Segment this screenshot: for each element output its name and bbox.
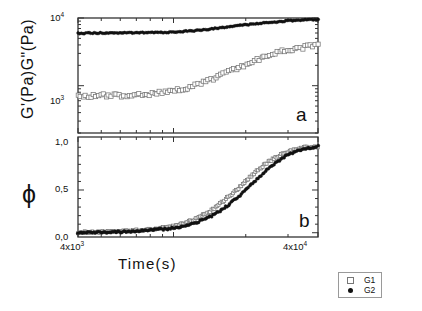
filled-circle-icon: [342, 288, 358, 293]
panel-b-series: [76, 144, 320, 235]
plot-canvas: [0, 0, 422, 311]
open-square-icon: [342, 277, 358, 284]
legend-item-g2: G2: [342, 285, 375, 295]
figure-root: G'(Pa)G"(Pa) ϕ Time(s) 104 103 1,0 0,5 0…: [0, 0, 422, 311]
panel-a-series: [76, 18, 320, 99]
legend-label-g2: G2: [364, 285, 375, 295]
legend: G1 G2: [338, 272, 382, 298]
legend-item-g1: G1: [342, 275, 375, 285]
legend-label-g1: G1: [364, 275, 375, 285]
